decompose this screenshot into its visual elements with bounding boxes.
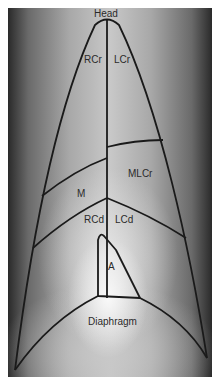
label-rcr: RCr <box>84 55 102 65</box>
lcr-mlcr-boundary <box>107 140 163 147</box>
label-head: Head <box>94 9 118 19</box>
accessory-lobe-outline <box>98 235 140 298</box>
rcr-m-boundary <box>42 158 107 196</box>
label-lcr: LCr <box>114 55 130 65</box>
label-a: A <box>108 262 115 272</box>
diaphragm-left-boundary <box>15 296 98 370</box>
label-rcd: RCd <box>84 215 104 225</box>
label-m: M <box>77 189 85 199</box>
label-lcd: LCd <box>115 215 133 225</box>
diaphragm-right-boundary <box>140 298 207 358</box>
label-diaphragm: Diaphragm <box>88 317 137 327</box>
label-mlcr: MLCr <box>128 169 152 179</box>
